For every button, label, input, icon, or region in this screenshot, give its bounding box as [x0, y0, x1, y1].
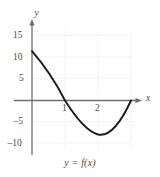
y-tick-label-10: 10	[13, 53, 23, 63]
x-tick-label-1: 1	[62, 104, 67, 114]
x-tick-label-2: 2	[95, 104, 100, 114]
y-axis	[29, 19, 34, 155]
x-axis	[14, 98, 142, 103]
y-tick-label-minus10: –10	[8, 139, 22, 149]
y-axis-label: y	[35, 9, 39, 19]
plot-area	[0, 0, 160, 177]
x-axis-label: x	[146, 94, 150, 104]
x-axis-arrow-icon	[136, 98, 143, 103]
y-tick-label-minus5: –5	[14, 117, 24, 127]
vertical-gridlines	[65, 30, 131, 150]
y-tick-label-15: 15	[13, 31, 23, 41]
function-curve	[32, 51, 131, 135]
y-axis-arrow-icon	[29, 19, 34, 26]
y-tick-label-5: 5	[19, 74, 24, 84]
function-graph-figure: 15 10 5 –5 –10 1 2 y x y = f(x)	[0, 0, 160, 177]
figure-caption: y = f(x)	[0, 157, 160, 168]
